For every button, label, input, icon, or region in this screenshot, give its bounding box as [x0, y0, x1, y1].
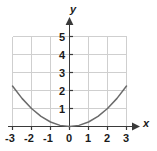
y-tick-label: 3: [59, 68, 65, 79]
x-tick-label: -1: [43, 133, 53, 144]
y-tick-label: 1: [59, 104, 65, 115]
x-tick-label: 2: [104, 133, 110, 144]
coordinate-plane-svg: [0, 0, 157, 151]
y-tick-label: 4: [59, 50, 65, 61]
x-tick-label: 3: [123, 133, 129, 144]
x-axis-title: x: [143, 118, 149, 129]
graph-figure: -3 -2 -1 0 1 2 3 1 2 3 4 5 y x: [0, 0, 157, 151]
y-axis: [66, 17, 74, 130]
y-axis-arrowhead: [66, 17, 74, 25]
x-tick-label: 1: [85, 133, 91, 144]
x-tick-label: 0: [66, 133, 72, 144]
x-axis-arrowhead: [132, 123, 140, 131]
y-tick-label: 2: [59, 86, 65, 97]
y-tick-label: 5: [59, 32, 65, 43]
x-tick-label: -2: [24, 133, 34, 144]
x-tick-label: -3: [5, 133, 15, 144]
y-axis-title: y: [70, 4, 76, 15]
